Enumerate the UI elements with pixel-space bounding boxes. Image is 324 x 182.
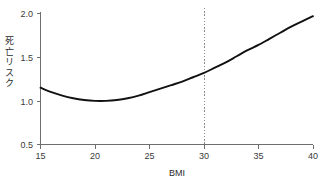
y-tick-label-1.0: 1.0 (20, 97, 33, 107)
x-axis-title: BMI (169, 168, 185, 178)
y-tick-label-2.0: 2.0 (20, 9, 33, 19)
x-tick-label-20: 20 (90, 151, 100, 161)
y-axis-tick-labels: 2.0 1.5 1.0 0.5 (20, 9, 33, 150)
x-axis-ticks (41, 145, 314, 149)
mortality-risk-bmi-chart: 死 亡 リ ス ク 2.0 1.5 1.0 0.5 15 20 25 (0, 0, 324, 182)
x-tick-label-40: 40 (308, 151, 318, 161)
x-tick-label-15: 15 (35, 151, 45, 161)
x-tick-label-35: 35 (253, 151, 263, 161)
x-axis-tick-labels: 15 20 25 30 35 40 (35, 151, 318, 161)
mortality-risk-curve (41, 16, 314, 101)
x-tick-label-25: 25 (144, 151, 154, 161)
y-axis-ticks (37, 14, 41, 145)
y-tick-label-1.5: 1.5 (20, 53, 33, 63)
x-tick-label-30: 30 (199, 151, 209, 161)
plot-area: 2.0 1.5 1.0 0.5 15 20 25 30 35 40 BMI (0, 0, 324, 182)
y-tick-label-0.5: 0.5 (20, 140, 33, 150)
